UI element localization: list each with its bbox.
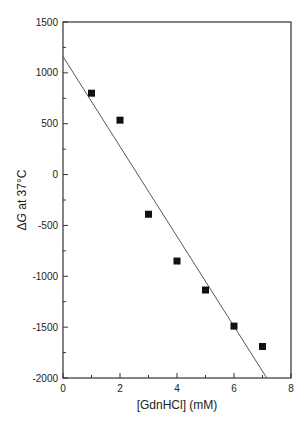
data-point-square — [88, 90, 95, 97]
plot-frame — [63, 22, 291, 378]
y-tick-label: -2000 — [32, 373, 58, 384]
data-point-square — [259, 343, 266, 350]
chart-svg: -2000-1500-1000-500050010001500 02468 [G… — [0, 0, 307, 431]
plot-border — [63, 22, 291, 378]
data-point-square — [174, 258, 181, 265]
linear-fit-line — [63, 57, 267, 378]
x-tick-label: 4 — [174, 383, 180, 394]
x-axis-title: [GdnHCl] (mM) — [137, 398, 218, 412]
y-tick-label: 1500 — [36, 17, 59, 28]
y-tick-label: 1000 — [36, 67, 59, 78]
data-point-square — [231, 323, 238, 330]
fit-line — [63, 57, 267, 378]
x-tick-label: 0 — [60, 383, 66, 394]
x-tick-label: 2 — [117, 383, 123, 394]
y-tick-label: 500 — [41, 118, 58, 129]
y-tick-label: -500 — [38, 220, 58, 231]
x-axis: 02468 — [60, 373, 294, 394]
y-tick-label: -1000 — [32, 271, 58, 282]
data-point-square — [117, 117, 124, 124]
data-point-square — [145, 211, 152, 218]
y-axis-title: ΔG at 37°C — [15, 169, 29, 230]
data-point-square — [202, 287, 209, 294]
chart: -2000-1500-1000-500050010001500 02468 [G… — [0, 0, 307, 431]
x-tick-label: 8 — [288, 383, 294, 394]
data-markers — [88, 90, 266, 350]
y-tick-label: 0 — [52, 169, 58, 180]
x-tick-label: 6 — [231, 383, 237, 394]
y-tick-label: -1500 — [32, 322, 58, 333]
